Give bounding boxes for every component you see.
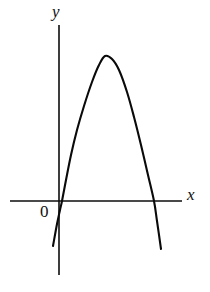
y-axis-label: y [52, 3, 60, 20]
x-axis-label: x [187, 186, 195, 203]
origin-label: 0 [40, 203, 49, 220]
parabola-curve [53, 56, 161, 249]
graph-svg [0, 0, 210, 292]
figure-canvas: y x 0 [0, 0, 210, 292]
